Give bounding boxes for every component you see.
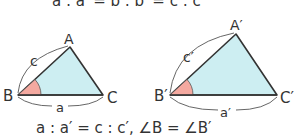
triangle-abc: A B C c a [3, 31, 117, 115]
similar-triangles-diagram: a : a′ = b : b′ = c : c′ A B C c a A′ B′… [0, 0, 296, 139]
vertex-c-label: C [107, 89, 117, 107]
vertex-b-label: B [3, 87, 13, 105]
vertex-c-prime-label: C′ [280, 89, 294, 107]
vertex-a-prime-label: A′ [230, 17, 243, 33]
side-a-label: a [56, 100, 64, 115]
triangle-abc-prime: A′ B′ C′ c′ a′ [154, 17, 294, 120]
side-c-prime-label: c′ [183, 49, 194, 65]
vertex-a-label: A [64, 31, 74, 47]
top-equation: a : a′ = b : b′ = c : c′ [52, 0, 205, 10]
side-c-label: c [30, 53, 38, 69]
side-a-prime-label: a′ [220, 105, 231, 120]
bottom-equation: a : a′ = c : c′, ∠B = ∠B′ [36, 119, 212, 137]
vertex-b-prime-label: B′ [154, 87, 168, 105]
